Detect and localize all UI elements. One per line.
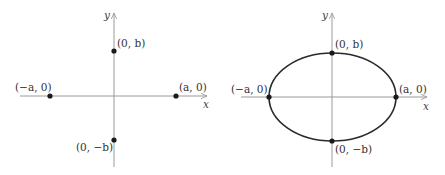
point-0-b (329, 50, 334, 55)
label-neg-a-0: (−a, 0) (231, 83, 268, 95)
y-axis-label: y (321, 9, 329, 21)
left-figure: x y (0, b) (−a, 0) (a, 0) (0, −b) (15, 9, 209, 167)
point-a-0 (393, 94, 398, 99)
y-axis-label: y (103, 9, 111, 21)
label-a-0: (a, 0) (399, 83, 427, 95)
point-0-b (111, 48, 116, 53)
point-a-0 (173, 93, 178, 98)
point-neg-a-0 (47, 93, 52, 98)
label-0-b: (0, b) (117, 37, 145, 49)
point-0-neg-b (329, 138, 334, 143)
label-0-b: (0, b) (335, 38, 363, 50)
diagram-canvas: x y (0, b) (−a, 0) (a, 0) (0, −b) x y (0… (0, 0, 445, 175)
label-a-0: (a, 0) (179, 81, 207, 93)
label-0-neg-b: (0, −b) (76, 141, 113, 153)
x-axis-label: x (203, 98, 209, 110)
point-neg-a-0 (266, 94, 271, 99)
right-figure: x y (0, b) (−a, 0) (a, 0) (0, −b) (231, 9, 429, 167)
label-neg-a-0: (−a, 0) (15, 81, 52, 93)
x-axis-label: x (423, 100, 429, 112)
label-0-neg-b: (0, −b) (335, 143, 372, 155)
